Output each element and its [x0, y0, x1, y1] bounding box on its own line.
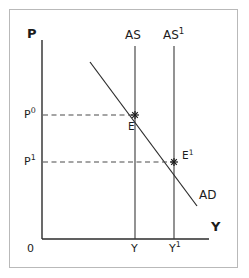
equilibrium-label-e1-base: E: [182, 149, 189, 161]
ad-curve: [90, 62, 197, 206]
price-tick-p0: P0: [24, 109, 36, 120]
as-curve-label: AS: [125, 29, 141, 41]
ad-curve-label: AD: [199, 189, 216, 201]
price-tick-p1-sup: 1: [31, 153, 36, 162]
equilibrium-label-e-base: E: [128, 120, 135, 132]
output-tick-y: Y: [131, 243, 138, 254]
origin-label: 0: [27, 243, 34, 254]
output-tick-y1-base: Y: [169, 242, 176, 255]
as1-curve-label: AS1: [163, 29, 184, 41]
as-curve-label-text: AS: [125, 28, 141, 42]
price-tick-p1-base: P: [24, 155, 31, 168]
as1-curve-label-sup: 1: [179, 26, 185, 36]
y-axis-label: P: [27, 27, 37, 40]
x-axis-label: Y: [211, 220, 220, 233]
equilibrium-marker-e1: [170, 158, 178, 166]
output-tick-y-base: Y: [131, 242, 138, 255]
equilibrium-label-e: E: [128, 121, 135, 132]
figure-root: P Y 0 AS AS1 AD P0 P1 Y Y1 E E1: [0, 0, 249, 278]
price-tick-p1: P1: [24, 156, 36, 167]
equilibrium-label-e1-sup: 1: [189, 148, 194, 157]
equilibrium-marker-e: [131, 111, 139, 119]
price-tick-p0-sup: 0: [31, 106, 36, 115]
price-tick-p0-base: P: [24, 108, 31, 121]
equilibrium-label-e1: E1: [182, 150, 193, 161]
as1-curve-label-text: AS: [163, 28, 179, 42]
output-tick-y1-sup: 1: [176, 240, 181, 249]
output-tick-y1: Y1: [169, 243, 181, 254]
